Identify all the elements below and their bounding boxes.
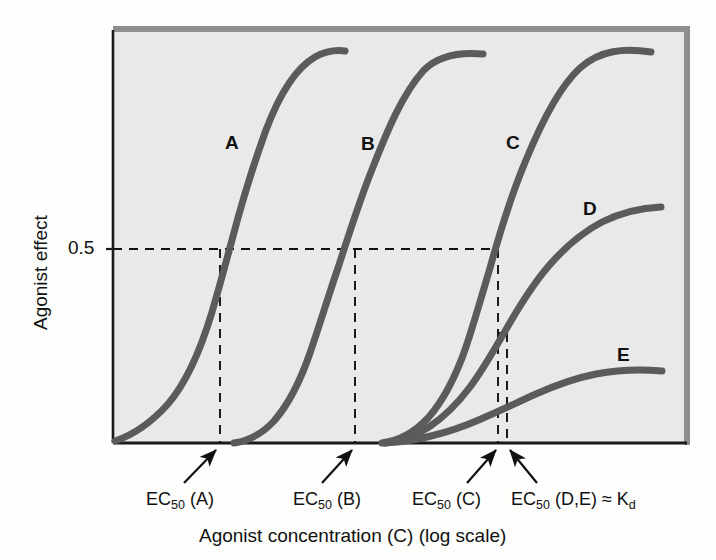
ec50-a-label: EC50 (A) bbox=[146, 490, 214, 508]
ec50-b-suffix: (B) bbox=[332, 489, 361, 509]
ec50-de-suffix: (D,E) ≈ K bbox=[550, 489, 629, 509]
ec50-a-subscript: 50 bbox=[171, 498, 185, 512]
ec50-de-subscript: 50 bbox=[536, 498, 550, 512]
y-tick-label-0-5: 0.5 bbox=[68, 238, 94, 257]
curve-label-c: C bbox=[506, 133, 520, 152]
ec50-c-text: EC bbox=[412, 489, 437, 509]
dose-response-figure: Agonist effect 0.5 A B C D E EC50 (A) EC… bbox=[0, 0, 716, 560]
ec50-c-suffix: (C) bbox=[451, 489, 481, 509]
ec50-b-label: EC50 (B) bbox=[293, 490, 361, 508]
y-axis-title: Agonist effect bbox=[30, 215, 52, 330]
ec50-de-text: EC bbox=[511, 489, 536, 509]
ec50-b-subscript: 50 bbox=[318, 498, 332, 512]
ec50-c-subscript: 50 bbox=[437, 498, 451, 512]
curve-label-d: D bbox=[583, 199, 597, 218]
ec50-a-suffix: (A) bbox=[185, 489, 214, 509]
plot-area-background bbox=[113, 30, 687, 443]
kd-subscript: d bbox=[629, 498, 636, 512]
curve-label-e: E bbox=[617, 345, 630, 364]
plot-top-border bbox=[113, 26, 690, 32]
curve-label-b: B bbox=[361, 134, 375, 153]
x-axis-title: Agonist concentration (C) (log scale) bbox=[199, 526, 506, 545]
ec50-b-text: EC bbox=[293, 489, 318, 509]
chart-canvas bbox=[0, 0, 716, 560]
ec50-de-label: EC50 (D,E) ≈ Kd bbox=[511, 490, 636, 508]
plot-right-border bbox=[684, 30, 690, 445]
curve-label-a: A bbox=[225, 133, 239, 152]
ec50-c-label: EC50 (C) bbox=[412, 490, 481, 508]
ec50-a-text: EC bbox=[146, 489, 171, 509]
